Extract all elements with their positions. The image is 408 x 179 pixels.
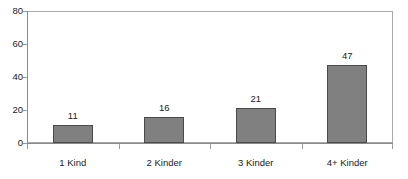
x-axis-tick-mark xyxy=(392,144,393,149)
y-axis-tick-label: 0 xyxy=(0,138,23,148)
y-axis-tick-labels: 020406080 xyxy=(0,0,23,179)
y-axis-tick-mark xyxy=(23,44,27,45)
y-axis-line xyxy=(27,11,28,144)
bar-chart: 020406080 11162147 1 Kind2 Kinder3 Kinde… xyxy=(0,0,408,179)
x-axis-tick-mark xyxy=(27,144,28,149)
bar-value-label: 11 xyxy=(43,111,103,121)
x-axis-tick-mark xyxy=(302,144,303,149)
y-axis-tick-label: 80 xyxy=(0,6,23,16)
x-axis-category-label: 1 Kind xyxy=(28,158,118,168)
x-axis-tick-mark xyxy=(119,144,120,149)
y-axis-tick-mark xyxy=(23,11,27,12)
x-axis-category-label: 4+ Kinder xyxy=(302,158,392,168)
x-axis-category-label: 2 Kinder xyxy=(119,158,209,168)
y-axis-tick-label: 40 xyxy=(0,72,23,82)
bar-value-label: 16 xyxy=(134,103,194,113)
y-axis-tick-label: 20 xyxy=(0,105,23,115)
bar-value-label: 47 xyxy=(317,51,377,61)
x-axis-tick-mark xyxy=(210,144,211,149)
bar-value-label: 21 xyxy=(226,94,286,104)
y-axis-tick-mark xyxy=(23,77,27,78)
bar xyxy=(327,65,367,143)
y-axis-tick-label: 60 xyxy=(0,39,23,49)
bar xyxy=(144,117,184,143)
bar xyxy=(236,108,276,143)
bar xyxy=(53,125,93,143)
x-axis-category-label: 3 Kinder xyxy=(211,158,301,168)
y-axis-tick-mark xyxy=(23,110,27,111)
